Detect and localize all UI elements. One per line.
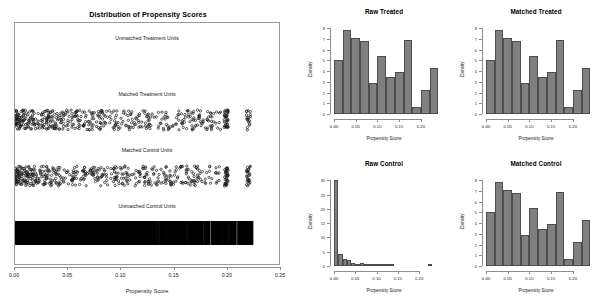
histogram-bar [495, 30, 504, 114]
histogram-x-axis-label: Propensity Score [519, 288, 554, 293]
histogram-y-tick [327, 39, 330, 40]
histogram-x-tick [486, 271, 487, 274]
histogram-y-tick-label: 0 [308, 112, 325, 117]
histogram-bar [428, 264, 432, 266]
histogram-bar [564, 259, 573, 267]
jitter-x-axis-line [14, 267, 280, 268]
histogram-bar [538, 77, 547, 115]
histogram-y-tick [479, 223, 482, 224]
jitter-x-tick [67, 267, 68, 270]
histogram-x-tick [334, 271, 335, 274]
histogram-bar [386, 77, 395, 115]
histogram-bar [529, 56, 538, 114]
histogram-y-tick [327, 223, 330, 224]
jitter-x-tick-label: 0.15 [169, 272, 179, 278]
histogram-y-tick [479, 266, 482, 267]
histogram-x-tick-label: 0.10 [525, 124, 533, 129]
histogram-y-tick [479, 234, 482, 235]
histogram-y-tick-label: 5 [308, 249, 325, 254]
histogram-x-tick-label: 0.20 [415, 276, 423, 281]
histogram-y-tick [479, 82, 482, 83]
histogram-y-tick-label: 2 [460, 90, 477, 95]
histogram-bar [529, 208, 538, 266]
histogram-bar [582, 68, 591, 114]
histogram-y-tick-label: 30 [308, 178, 325, 183]
histogram-y-axis [482, 28, 483, 114]
jitter-panel: Distribution of Propensity Scores Unmatc… [0, 0, 296, 306]
histogram-y-tick-label: 1 [460, 101, 477, 106]
histogram-y-tick [327, 209, 330, 210]
histogram-y-tick-label: 10 [308, 235, 325, 240]
histogram-bar [334, 60, 343, 114]
jitter-x-tick [174, 267, 175, 270]
histogram-bar [521, 83, 530, 114]
histogram-x-tick [529, 271, 530, 274]
histogram-x-tick [529, 119, 530, 122]
histogram-y-tick-label: 2 [460, 242, 477, 247]
histogram-x-tick-label: 0.10 [372, 276, 380, 281]
histogram-bar [547, 72, 556, 114]
histogram-bar [582, 220, 591, 266]
jitter-x-tick [120, 267, 121, 270]
histogram-raw-control: Raw Control0510152025300.000.050.100.150… [300, 154, 442, 304]
histogram-x-tick [551, 271, 552, 274]
histogram-title: Matched Treated [510, 8, 561, 15]
histogram-y-tick [479, 93, 482, 94]
histogram-bar [503, 190, 512, 266]
histogram-x-tick-label: 0.15 [394, 276, 402, 281]
histogram-y-tick-label: 8 [460, 26, 477, 31]
histogram-x-tick-label: 0.05 [352, 124, 360, 129]
histogram-y-axis-label: Density [460, 61, 465, 76]
histogram-bar [512, 193, 521, 266]
histogram-y-tick [327, 28, 330, 29]
histogram-y-tick [327, 237, 330, 238]
histogram-bar [573, 242, 582, 266]
histogram-x-tick [399, 119, 400, 122]
histogram-matched-control: Matched Control0123456780.000.050.100.15… [452, 154, 594, 304]
histogram-plot-area [334, 176, 434, 266]
jitter-x-tick [280, 267, 281, 270]
histogram-bar [395, 72, 404, 114]
histogram-x-tick-label: 0.05 [504, 276, 512, 281]
histogram-x-tick [508, 119, 509, 122]
histogram-y-tick [327, 50, 330, 51]
histogram-title: Matched Control [510, 160, 561, 167]
histogram-y-tick [479, 245, 482, 246]
histogram-bar [430, 68, 439, 114]
histogram-y-tick [479, 255, 482, 256]
jitter-x-axis-label: Propensity Score [126, 288, 169, 294]
histogram-y-tick [479, 180, 482, 181]
histogram-y-axis-label: Density [308, 213, 313, 228]
histogram-x-tick-label: 0.20 [569, 124, 577, 129]
jitter-x-tick-label: 0.20 [222, 272, 232, 278]
histogram-y-tick-label: 6 [460, 199, 477, 204]
histogram-bar [547, 224, 556, 266]
histogram-y-tick-label: 0 [460, 112, 477, 117]
histogram-y-tick [327, 114, 330, 115]
histogram-x-axis-label: Propensity Score [367, 288, 402, 293]
jitter-band-matched-treatment [15, 107, 279, 133]
histogram-raw-treated: Raw Treated0123456780.000.050.100.150.20… [300, 2, 442, 152]
histogram-bar [573, 90, 582, 114]
histogram-y-tick-label: 0 [308, 264, 325, 269]
histogram-y-tick [327, 60, 330, 61]
propensity-score-figure: Distribution of Propensity Scores Unmatc… [0, 0, 598, 306]
histogram-x-tick-label: 0.15 [547, 276, 555, 281]
histogram-x-tick-label: 0.00 [330, 276, 338, 281]
histogram-bar [556, 192, 565, 266]
histogram-x-tick-label: 0.00 [330, 124, 338, 129]
histogram-y-tick-label: 7 [308, 37, 325, 42]
histogram-y-tick [327, 71, 330, 72]
histogram-bar [486, 60, 495, 114]
histogram-y-axis-label: Density [460, 213, 465, 228]
histogram-bar [538, 229, 547, 267]
histogram-plot-area [486, 176, 586, 266]
histogram-y-tick-label: 8 [460, 178, 477, 183]
histogram-x-tick [398, 271, 399, 274]
group-label-unmatched-treatment: Unmatched Treatment Units [115, 35, 178, 41]
histogram-bar [351, 38, 360, 114]
group-label-matched-control: Matched Control Units [122, 147, 172, 153]
jitter-x-tick-label: 0.05 [62, 272, 72, 278]
histogram-y-tick-label: 6 [308, 47, 325, 52]
page-title: Distribution of Propensity Scores [89, 10, 207, 19]
